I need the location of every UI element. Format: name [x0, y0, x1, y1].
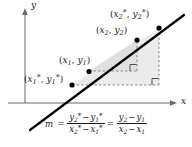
- y-axis-label: y: [31, 1, 36, 10]
- num-b-star: *: [99, 112, 103, 120]
- label-close-paren: ): [60, 74, 64, 84]
- num-operator: −: [128, 112, 135, 122]
- point-x2-y2: [134, 37, 139, 42]
- second-fraction-denominator: x2−x1: [117, 124, 147, 135]
- label-close-paren: ): [124, 25, 128, 35]
- formula-equals-1: =: [58, 119, 65, 129]
- point-x1star-y1star: [69, 82, 74, 87]
- formula-first-fraction: y2*−y1* x2*−x1*: [67, 112, 104, 135]
- den-a-star: *: [78, 124, 82, 132]
- label-close-paren: ): [87, 55, 91, 65]
- den-b-star: *: [99, 124, 103, 132]
- point-x1-y1: [86, 69, 91, 74]
- point-x2star-y2star: [156, 25, 161, 30]
- label-point-x1star-y1star: (x1*, y1*): [24, 74, 63, 85]
- slope-formula: m = y2*−y1* x2*−x1* = y2−y1 x2−x1: [0, 112, 192, 135]
- label-point-x2-y2: (x2, y2): [96, 26, 127, 36]
- num-operator: −: [82, 112, 89, 122]
- formula-second-fraction: y2−y1 x2−x1: [117, 112, 147, 135]
- slope-diagram-figure: y x (x1*, y1*) (x1, y1) (x2, y2) (x2*, y…: [0, 0, 192, 147]
- num-b-subscript: 1: [141, 116, 145, 123]
- y-axis-arrowhead: [22, 8, 28, 15]
- formula-equals-2: =: [107, 119, 114, 129]
- label-point-x2star-y2star: (x2*, y2*): [110, 9, 149, 20]
- den-operator: −: [82, 124, 89, 134]
- second-fraction-numerator: y2−y1: [117, 112, 147, 123]
- label-point-x1-y1: (x1, y1): [59, 56, 90, 66]
- num-a-star: *: [78, 112, 82, 120]
- den-b-subscript: 1: [141, 128, 145, 135]
- x-axis-label: x: [181, 97, 186, 106]
- den-operator: −: [128, 124, 135, 134]
- formula-m-symbol: m: [45, 119, 53, 129]
- den-a-subscript: 2: [123, 128, 127, 135]
- first-fraction-denominator: x2*−x1*: [67, 124, 104, 135]
- num-a-subscript: 2: [123, 116, 127, 123]
- first-fraction-numerator: y2*−y1*: [67, 112, 104, 123]
- label-close-paren: ): [146, 9, 150, 19]
- x-axis-arrowhead: [170, 100, 177, 106]
